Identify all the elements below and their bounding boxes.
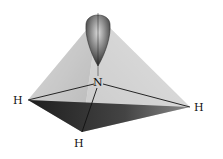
atom-label-n: N: [93, 76, 103, 89]
atom-label-h-right: H: [194, 101, 204, 114]
atom-label-h-left: H: [13, 94, 23, 107]
atom-label-h-bottom: H: [74, 137, 84, 150]
ammonia-diagram: N H H H: [0, 0, 223, 159]
